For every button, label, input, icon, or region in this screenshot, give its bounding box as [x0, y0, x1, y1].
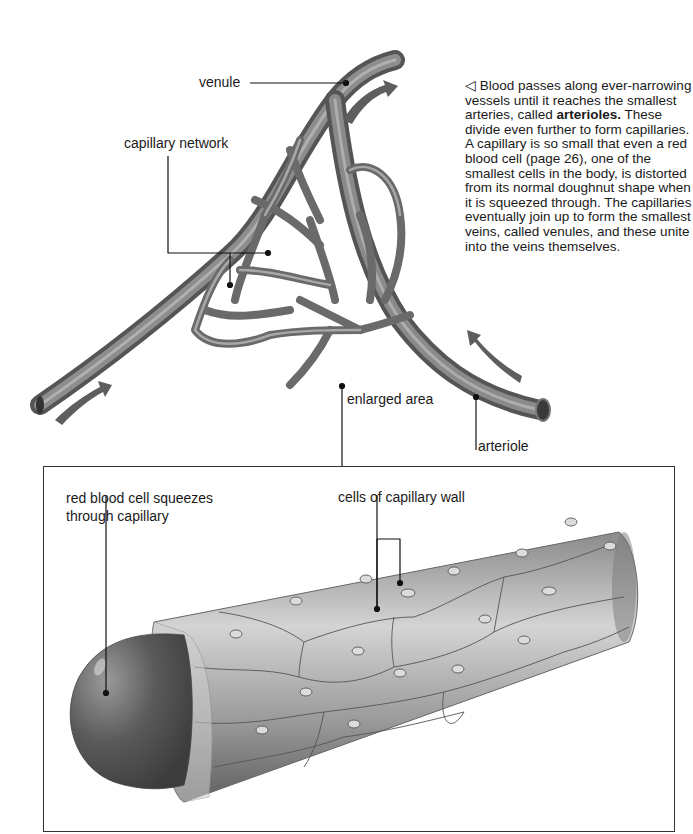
- label-arteriole: arteriole: [478, 438, 529, 455]
- caption-rest: These divide even further to form capill…: [465, 107, 691, 253]
- figure-caption: ◁ Blood passes along ever-narrowing vess…: [465, 79, 693, 254]
- label-enlarged-area: enlarged area: [347, 391, 433, 408]
- red-blood-cell: [70, 634, 192, 789]
- caption-arrow-icon: ◁: [465, 78, 476, 93]
- label-red-blood-cell-line2: through capillary: [66, 507, 213, 525]
- label-capillary-network: capillary network: [124, 135, 228, 152]
- label-red-blood-cell-line1: red blood cell squeezes: [66, 489, 213, 507]
- caption-bold-term: arterioles.: [557, 107, 622, 122]
- label-cells-of-capillary-wall: cells of capillary wall: [338, 489, 465, 506]
- flow-arrow-icon: [467, 330, 522, 383]
- enlarged-area-inset: red blood cell squeezes through capillar…: [43, 466, 675, 832]
- arteriole-opening: [536, 399, 550, 421]
- label-venule: venule: [199, 74, 240, 91]
- label-red-blood-cell: red blood cell squeezes through capillar…: [66, 489, 213, 525]
